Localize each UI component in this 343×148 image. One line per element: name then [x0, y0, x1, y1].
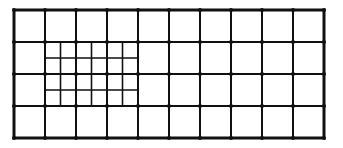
grid-node — [136, 40, 140, 44]
grid-node — [74, 104, 78, 108]
grid-node — [167, 40, 171, 44]
grid-node — [43, 40, 47, 44]
grid-node — [291, 40, 295, 44]
grid-node — [260, 104, 264, 108]
grid-node — [105, 40, 109, 44]
grid-node — [105, 104, 109, 108]
grid-node — [136, 72, 140, 76]
grid-node — [229, 104, 233, 108]
grid-node — [43, 72, 47, 76]
grid-node — [198, 40, 202, 44]
grid-node — [260, 40, 264, 44]
grid-node — [229, 72, 233, 76]
grid-node — [74, 40, 78, 44]
grid-node — [260, 72, 264, 76]
grid-node — [105, 72, 109, 76]
grid-node — [74, 72, 78, 76]
grid-node — [167, 72, 171, 76]
grid-node — [198, 104, 202, 108]
grid-node — [291, 72, 295, 76]
mesh-diagram — [0, 0, 343, 148]
grid-node — [167, 104, 171, 108]
grid-node — [43, 104, 47, 108]
grid-node — [291, 104, 295, 108]
grid-node — [229, 40, 233, 44]
grid-node — [136, 104, 140, 108]
grid-node — [198, 72, 202, 76]
